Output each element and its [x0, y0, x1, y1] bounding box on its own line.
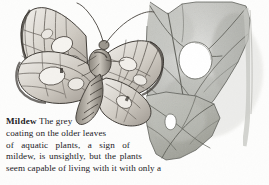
moth-body: [76, 41, 111, 125]
book-page: Mildew The grey coating on the older lea…: [0, 0, 269, 185]
caption-line-2: coating on the older leaves: [6, 128, 166, 140]
moth-forewing-right: [102, 40, 164, 96]
moth-antennae: [77, 3, 154, 43]
moth-legs: [78, 56, 124, 76]
moth-forewing-left: [21, 8, 88, 88]
leaf-hole-large: [179, 42, 212, 79]
caption-line-5: seem capable of living with it with only…: [6, 163, 166, 175]
caption-line-4: mildew, is unsightly, but the plants: [6, 151, 142, 163]
caption-line-1-text: The grey: [39, 116, 72, 126]
caption-line-3: of aquatic plants, a sign of: [6, 140, 130, 152]
caption-line-1: Mildew The grey: [6, 116, 166, 128]
moth-illustration: [16, 3, 163, 126]
caption-text-block: Mildew The grey coating on the older lea…: [6, 116, 166, 175]
moth-hindwing-left: [16, 52, 96, 104]
leaf-hole-small: [165, 114, 176, 130]
caption-term: Mildew: [6, 116, 37, 126]
